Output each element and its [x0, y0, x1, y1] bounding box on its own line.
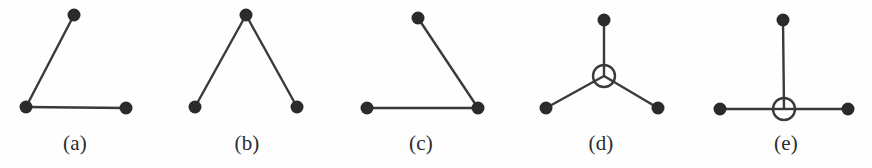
graph-node-filled: [777, 14, 790, 27]
panel-label-d: (d): [588, 133, 613, 154]
figure-container: (a) (b) (c) (d) (e): [0, 0, 872, 168]
graph-node-filled: [120, 102, 133, 115]
graph-node-filled: [714, 103, 727, 116]
graph-node-filled: [361, 102, 374, 115]
graph-edge: [418, 18, 478, 108]
graph-node-filled: [598, 14, 611, 27]
graph-node-filled: [412, 12, 425, 25]
graph-edge: [783, 20, 784, 109]
graph-diagram-canvas: [0, 0, 872, 168]
graph-edge: [195, 15, 246, 107]
panel-label-e: (e): [774, 133, 798, 154]
graph-node-filled: [652, 102, 665, 115]
graph-node-filled: [472, 102, 485, 115]
graph-edge: [26, 15, 74, 107]
graph-node-filled: [540, 102, 553, 115]
graph-node-filled: [68, 9, 81, 22]
graph-node-filled: [240, 9, 253, 22]
graph-node-filled: [189, 101, 202, 114]
panel-label-a: (a): [63, 133, 87, 154]
graph-node-filled: [842, 103, 855, 116]
panel-label-c: (c): [409, 133, 433, 154]
edges-layer: [26, 15, 848, 109]
nodes-layer: [20, 9, 855, 121]
graph-edge: [246, 15, 297, 107]
graph-node-filled: [20, 101, 33, 114]
panel-label-b: (b): [234, 133, 259, 154]
graph-node-filled: [291, 101, 304, 114]
graph-edge: [26, 107, 126, 108]
